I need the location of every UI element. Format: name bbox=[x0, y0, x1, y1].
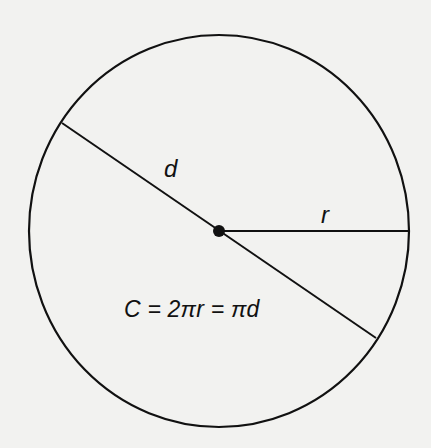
center-point bbox=[213, 225, 225, 237]
diameter-label: d bbox=[164, 157, 177, 181]
radius-label: r bbox=[321, 203, 329, 227]
circumference-formula: C = 2πr = πd bbox=[124, 298, 260, 321]
circle-diagram bbox=[0, 0, 431, 448]
